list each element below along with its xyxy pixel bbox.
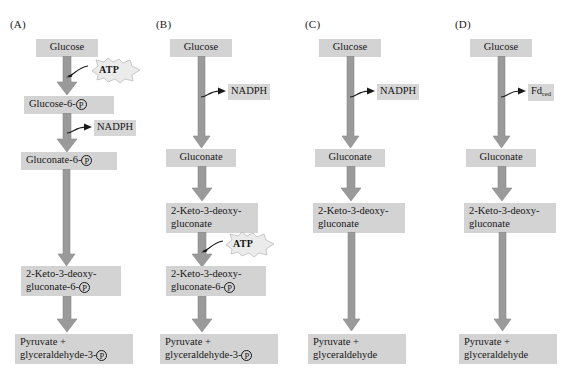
cofactor-b-nadph-label: NADPH [231,85,267,96]
node-a-gluconate-6-p-label: Gluconate-6- [26,154,81,165]
node-b-kdpg-line2: gluconate-6-P [171,281,261,294]
cofactor-b-nadph: NADPH [228,84,270,100]
node-c-pyruvate: Pyruvate + glyceraldehyde [308,334,406,364]
cofactor-d-fd-subscript: red [542,90,551,98]
arrow-b-4 [190,296,214,333]
panel-label-a: (A) [10,18,26,30]
node-d-kdg-line2: gluconate [469,218,551,231]
node-b-kdpg-line1: 2-Keto-3-deoxy- [171,268,261,281]
panel-label-d: (D) [455,18,471,30]
node-d-gluconate-label: Gluconate [479,151,522,162]
node-b-kdg-line2: gluconate [171,218,253,231]
cofactor-c-nadph-label: NADPH [380,85,416,96]
arrow-a-4 [55,296,79,333]
node-c-kdg: 2-Keto-3-deoxy- gluconate [313,203,405,233]
cofactor-c-nadph: NADPH [377,84,419,100]
phosphate-icon: P [76,99,87,110]
node-d-kdg: 2-Keto-3-deoxy- gluconate [464,203,556,233]
phosphate-icon: P [79,282,90,293]
node-d-pyruvate-line1: Pyruvate + [464,336,552,349]
phosphate-icon: P [224,282,235,293]
node-d-kdg-line1: 2-Keto-3-deoxy- [469,205,551,218]
node-a-kdpg: 2-Keto-3-deoxy- gluconate-6-P [21,266,121,296]
node-a-pyruvate-line2: glyceraldehyde-3-P [20,349,128,362]
phosphate-icon: P [241,350,252,361]
node-a-kdpg-line2: gluconate-6-P [26,281,116,294]
node-c-kdg-line2: gluconate [318,218,400,231]
node-b-gluconate-label: Gluconate [179,151,222,162]
burst-a-atp-label: ATP [99,64,119,75]
arrow-d-2 [490,166,514,202]
phosphate-icon: P [96,350,107,361]
hook-d-fd [500,86,528,100]
panel-label-b: (B) [156,18,171,30]
burst-b-atp-label: ATP [233,238,253,249]
node-a-pyruvate-line1: Pyruvate + [20,336,128,349]
hook-a-nadph [66,122,94,136]
node-b-pyruvate-line1: Pyruvate + [165,336,273,349]
arrow-c-3-long [343,232,361,332]
node-a-kdpg-line1: 2-Keto-3-deoxy- [26,268,116,281]
node-c-glucose: Glucose [319,39,381,57]
arrow-d-1-long [493,56,511,149]
cofactor-d-fd-red: Fdred [528,84,554,101]
node-a-glucose-label: Glucose [50,41,84,52]
node-c-gluconate-label: Gluconate [328,151,371,162]
node-a-glucose-6-p-label: Glucose-6- [29,98,76,109]
node-a-pyruvate: Pyruvate + glyceraldehyde-3-P [15,334,133,364]
node-a-gluconate-6-p: Gluconate-6-P [21,152,117,170]
arrow-c-2 [339,166,363,202]
node-a-glucose: Glucose [36,39,98,57]
node-c-glucose-label: Glucose [333,41,367,52]
node-d-pyruvate-line2: glyceraldehyde [464,349,552,362]
node-c-gluconate: Gluconate [315,149,385,167]
node-c-pyruvate-line2: glyceraldehyde [313,349,401,362]
node-b-glucose-label: Glucose [184,41,218,52]
node-d-gluconate: Gluconate [466,149,536,167]
arrow-b-2 [190,166,214,202]
panel-label-c: (C) [305,18,320,30]
node-d-glucose-label: Glucose [484,41,518,52]
node-b-kdpg: 2-Keto-3-deoxy- gluconate-6-P [166,266,266,296]
node-b-pyruvate-line2: glyceraldehyde-3-P [165,349,273,362]
arrow-c-1-long [342,56,360,149]
figure-canvas: (A) Glucose ATP Glucose-6-P N [0,0,582,379]
node-b-kdg-line1: 2-Keto-3-deoxy- [171,205,253,218]
node-b-gluconate: Gluconate [166,149,236,167]
arrow-a-3-long [58,169,76,267]
node-b-pyruvate: Pyruvate + glyceraldehyde-3-P [160,334,278,364]
node-d-pyruvate: Pyruvate + glyceraldehyde [459,334,557,364]
cofactor-d-fd-label: Fd [531,85,542,96]
node-d-glucose: Glucose [470,39,532,57]
phosphate-icon: P [81,155,92,166]
arrow-d-3-long [494,232,512,332]
arrow-b-1-long [193,56,211,149]
hook-c-nadph [349,86,377,100]
node-b-kdg: 2-Keto-3-deoxy- gluconate [166,203,258,233]
node-a-glucose-6-p: Glucose-6-P [24,96,114,114]
node-c-kdg-line1: 2-Keto-3-deoxy- [318,205,400,218]
node-c-pyruvate-line1: Pyruvate + [313,336,401,349]
cofactor-a-nadph-label: NADPH [97,121,133,132]
cofactor-a-nadph: NADPH [94,120,136,136]
node-b-glucose: Glucose [170,39,232,57]
hook-b-nadph [200,86,228,100]
